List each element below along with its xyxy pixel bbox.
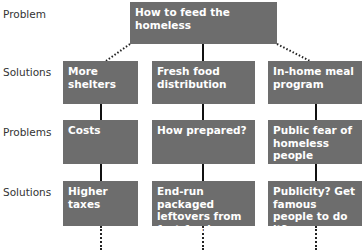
problem-box-col3: Public fear of homeless people <box>268 120 362 164</box>
connector-col1-r1 <box>100 104 102 120</box>
sub-solution-box-col2: End-run packaged leftovers from fast-foo… <box>152 181 255 226</box>
root-problem-box: How to feed the homeless <box>130 2 277 44</box>
connector-root-col2 <box>202 44 204 61</box>
continuation-col1 <box>100 226 102 250</box>
connector-col3-r1 <box>315 104 317 120</box>
connector-col2-r2 <box>202 164 204 181</box>
sub-solution-box-col1: Higher taxes <box>63 181 138 226</box>
solution-box-col1: More shelters <box>63 61 138 104</box>
problem-box-col2: How prepared? <box>152 120 255 164</box>
solution-box-col2: Fresh food distribution <box>152 61 255 104</box>
solution-box-col3: In-home meal program <box>268 61 362 104</box>
connector-col3-r2 <box>315 164 317 181</box>
connector-col2-r1 <box>202 104 204 120</box>
sub-solution-box-col3: Publicity? Get famous people to do it? <box>268 181 362 226</box>
problem-box-col1: Costs <box>63 120 138 164</box>
connector-col1-r2 <box>100 164 102 181</box>
continuation-col3 <box>315 226 317 250</box>
